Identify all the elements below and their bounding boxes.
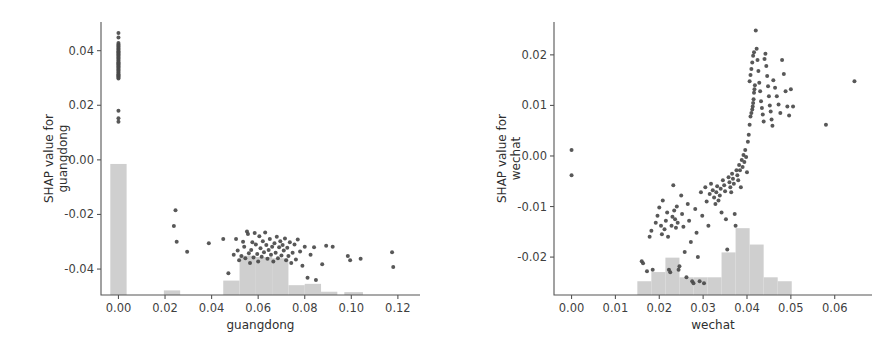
data-point: [744, 155, 748, 159]
data-point: [721, 178, 725, 182]
data-point: [294, 258, 298, 262]
x-tick-label: 0.06: [822, 301, 848, 315]
data-point: [713, 202, 717, 206]
data-point: [236, 249, 240, 253]
data-point: [174, 208, 178, 212]
hist-bar: [708, 277, 722, 295]
data-point: [752, 91, 756, 95]
data-point: [250, 240, 254, 244]
histogram-left: [110, 164, 363, 295]
data-point: [762, 120, 766, 124]
data-point: [116, 109, 120, 113]
y-axis-title-line: SHAP value for: [495, 114, 509, 203]
data-point: [714, 190, 718, 194]
y-tick-label: 0.02: [68, 98, 94, 112]
data-point: [789, 87, 793, 91]
data-point: [260, 255, 264, 259]
data-point: [267, 248, 271, 252]
data-point: [296, 238, 300, 242]
x-tick-label: 0.00: [106, 301, 132, 315]
data-point: [758, 89, 762, 93]
data-point: [654, 221, 658, 225]
data-point: [705, 199, 709, 203]
x-tick-label: 0.02: [152, 301, 178, 315]
data-point: [686, 202, 690, 206]
y-axis-title-line: wechat: [509, 136, 523, 180]
data-point: [246, 232, 250, 236]
y-tick-label: -0.02: [517, 250, 547, 264]
data-point: [673, 217, 677, 221]
data-point: [659, 224, 663, 228]
data-point: [303, 245, 307, 249]
data-point: [824, 123, 828, 127]
data-point: [237, 258, 241, 262]
data-point: [745, 170, 749, 174]
data-point: [264, 243, 268, 247]
data-point: [771, 78, 775, 82]
data-point: [712, 195, 716, 199]
data-point: [722, 183, 726, 187]
data-point: [270, 245, 274, 249]
data-point: [782, 72, 786, 76]
x-tick-label: 0.02: [646, 301, 672, 315]
data-point: [269, 253, 273, 257]
data-point: [724, 217, 728, 221]
data-point: [700, 214, 704, 218]
data-point: [747, 133, 751, 137]
data-point: [247, 251, 251, 255]
data-point: [306, 276, 310, 280]
data-point: [239, 254, 243, 258]
hist-bar: [288, 285, 304, 295]
data-point: [702, 281, 706, 285]
data-point: [663, 227, 667, 231]
hist-bar: [764, 277, 778, 295]
data-point: [716, 198, 720, 202]
data-point: [751, 101, 755, 105]
data-point: [641, 261, 645, 265]
data-point: [674, 226, 678, 230]
data-point: [761, 113, 765, 117]
data-point: [226, 271, 230, 275]
data-point: [570, 173, 574, 177]
hist-bar: [750, 245, 764, 295]
data-point: [257, 234, 261, 238]
histogram-right: [637, 228, 791, 295]
data-point: [787, 114, 791, 118]
data-point: [254, 243, 258, 247]
data-point: [683, 250, 687, 254]
data-point: [314, 278, 318, 282]
data-point: [679, 193, 683, 197]
data-point: [651, 268, 655, 272]
hist-bar: [272, 258, 288, 295]
data-point: [763, 57, 767, 61]
data-point: [116, 31, 120, 35]
data-point: [282, 249, 286, 253]
data-point: [234, 237, 238, 241]
data-point: [649, 229, 653, 233]
data-point: [691, 281, 695, 285]
data-point: [695, 231, 699, 235]
axes-spines-right: [554, 22, 872, 295]
data-point: [272, 241, 276, 245]
data-point: [720, 211, 724, 215]
data-point: [699, 190, 703, 194]
data-point: [777, 102, 781, 106]
data-point: [276, 256, 280, 260]
data-point: [116, 36, 120, 40]
data-point: [689, 240, 693, 244]
x-axis-left: 0.000.020.040.060.080.100.12: [106, 295, 411, 315]
data-point: [754, 29, 758, 33]
scatter-points-right: [570, 29, 857, 286]
data-point: [728, 185, 732, 189]
y-tick-label: 0.01: [521, 98, 547, 112]
data-point: [775, 94, 779, 98]
data-point: [261, 239, 265, 243]
data-point: [753, 83, 757, 87]
data-point: [718, 193, 722, 197]
data-point: [708, 192, 712, 196]
data-point: [390, 250, 394, 254]
data-point: [671, 183, 675, 187]
data-point: [696, 255, 700, 259]
x-tick-label: 0.05: [778, 301, 804, 315]
y-tick-label: -0.01: [517, 200, 547, 214]
